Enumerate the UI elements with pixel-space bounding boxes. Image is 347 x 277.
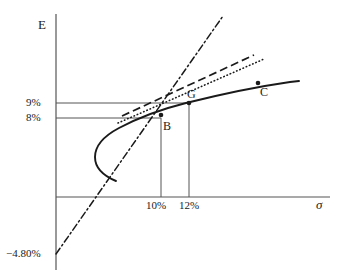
capital-allocation-line <box>56 16 223 254</box>
x-tick-12pct: 12% <box>179 200 199 211</box>
data-point-g <box>187 101 192 106</box>
y-axis-label: E <box>38 18 46 31</box>
efficient-frontier-curve <box>95 81 299 181</box>
x-axis-label: σ <box>316 198 322 211</box>
data-point-b <box>159 113 164 118</box>
point-label-g: G <box>187 88 196 100</box>
tangent-dashed-line <box>122 55 254 116</box>
point-label-b: B <box>163 120 171 132</box>
y-tick-8pct: 8% <box>26 112 41 123</box>
point-label-c: C <box>260 86 268 98</box>
y-tick-neg: −4.80% <box>6 248 41 259</box>
x-tick-10pct: 10% <box>146 200 166 211</box>
chart-canvas <box>0 0 347 277</box>
y-tick-9pct: 9% <box>26 97 41 108</box>
chart-page: E σ 9% 8% −4.80% 10% 12% B G C <box>0 0 347 277</box>
